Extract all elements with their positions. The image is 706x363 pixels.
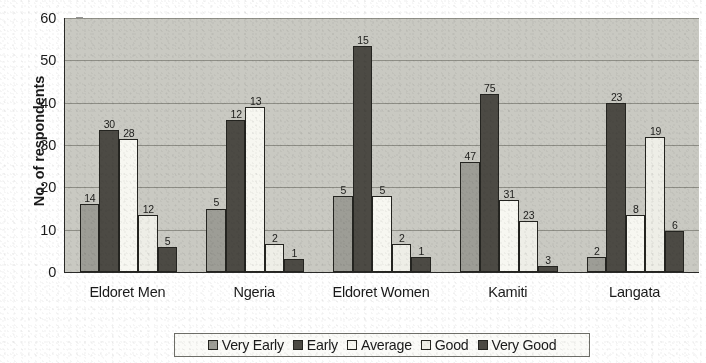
- bar-value-label: 3: [545, 255, 551, 266]
- legend-swatch-icon: [421, 340, 431, 350]
- bar-group: 2238196: [587, 18, 685, 272]
- legend-entry-very-good: Very Good: [478, 337, 557, 353]
- bar-group: 515521: [333, 18, 431, 272]
- chart-legend: Very EarlyEarlyAverageGoodVery Good: [174, 333, 590, 357]
- bar-value-label: 6: [672, 220, 678, 231]
- bar-value-label: 5: [165, 236, 171, 247]
- bar-value-label: 5: [340, 185, 346, 196]
- bar-value-label: 75: [484, 83, 495, 94]
- bar-value-label: 30: [104, 119, 115, 130]
- x-axis-label-langata: Langata: [609, 284, 660, 300]
- bar[interactable]: 2: [265, 244, 285, 272]
- bar[interactable]: 1: [411, 257, 431, 272]
- y-axis-tick-labels: 0102030405060: [18, 0, 56, 290]
- legend-label: Very Early: [222, 337, 284, 353]
- legend-label: Early: [307, 337, 338, 353]
- legend-label: Average: [361, 337, 412, 353]
- bar[interactable]: 8: [626, 215, 646, 272]
- bar[interactable]: 28: [119, 139, 139, 272]
- bar-value-label: 28: [123, 128, 134, 139]
- legend-entry-very-early: Very Early: [208, 337, 284, 353]
- bar-value-label: 5: [379, 185, 385, 196]
- bar[interactable]: 12: [226, 120, 246, 272]
- legend-entry-early: Early: [293, 337, 338, 353]
- bars-layer: 14302812551213215155214775312332238196: [65, 18, 699, 272]
- legend-entry-average: Average: [347, 337, 412, 353]
- bar[interactable]: 30: [99, 130, 119, 272]
- bar-value-label: 2: [272, 233, 278, 244]
- bar[interactable]: 75: [480, 94, 500, 272]
- legend-entry-good: Good: [421, 337, 469, 353]
- bar[interactable]: 23: [519, 221, 539, 272]
- bar-value-label: 15: [357, 35, 368, 46]
- bar-value-label: 1: [292, 248, 298, 259]
- bar-value-label: 19: [650, 126, 661, 137]
- legend-swatch-icon: [478, 340, 488, 350]
- bar-value-label: 12: [230, 109, 241, 120]
- bar-chart: No. of respondents 0102030405060 1430281…: [0, 0, 706, 363]
- x-axis-label-eldoret-women: Eldoret Women: [332, 284, 429, 300]
- bar-group: 5121321: [206, 18, 304, 272]
- bar[interactable]: 5: [333, 196, 353, 272]
- x-axis-label-ngeria: Ngeria: [233, 284, 275, 300]
- legend-swatch-icon: [347, 340, 357, 350]
- bar[interactable]: 13: [245, 107, 265, 272]
- y-axis-tick-30: 30: [18, 137, 56, 153]
- legend-label: Very Good: [492, 337, 557, 353]
- bar[interactable]: 5: [372, 196, 392, 272]
- x-axis-category-labels: Eldoret MenNgeriaEldoret WomenKamitiLang…: [64, 284, 698, 308]
- bar-value-label: 8: [633, 204, 639, 215]
- bar[interactable]: 12: [138, 215, 158, 272]
- bar-value-label: 12: [143, 204, 154, 215]
- y-axis-tick-50: 50: [18, 52, 56, 68]
- bar-value-label: 2: [594, 246, 600, 257]
- x-axis-label-kamiti: Kamiti: [488, 284, 527, 300]
- y-axis-tick-20: 20: [18, 179, 56, 195]
- legend-label: Good: [435, 337, 469, 353]
- bar[interactable]: 3: [538, 266, 558, 272]
- bar-value-label: 1: [418, 246, 424, 257]
- bar[interactable]: 2: [392, 244, 412, 272]
- bar-value-label: 13: [250, 96, 261, 107]
- bar-group: 477531233: [460, 18, 558, 272]
- legend-swatch-icon: [208, 340, 218, 350]
- bar[interactable]: 2: [587, 257, 607, 272]
- bar[interactable]: 1: [284, 259, 304, 272]
- bar-value-label: 47: [465, 151, 476, 162]
- bar[interactable]: 47: [460, 162, 480, 272]
- bar[interactable]: 5: [158, 247, 178, 272]
- y-axis-tick-10: 10: [18, 222, 56, 238]
- bar-value-label: 14: [84, 193, 95, 204]
- plot-area: 14302812551213215155214775312332238196: [64, 18, 699, 273]
- bar[interactable]: 14: [80, 204, 100, 272]
- y-axis-tick-60: 60: [18, 10, 56, 26]
- bar-value-label: 23: [611, 92, 622, 103]
- bar[interactable]: 31: [499, 200, 519, 272]
- bar[interactable]: 23: [606, 103, 626, 272]
- bar[interactable]: 19: [645, 137, 665, 272]
- bar[interactable]: 6: [665, 231, 685, 272]
- y-axis-tick-0: 0: [18, 264, 56, 280]
- bar-value-label: 31: [504, 189, 515, 200]
- bar[interactable]: 5: [206, 209, 226, 273]
- bar[interactable]: 15: [353, 46, 373, 272]
- x-axis-label-eldoret-men: Eldoret Men: [89, 284, 165, 300]
- bar-value-label: 2: [399, 233, 405, 244]
- bar-value-label: 5: [214, 197, 220, 208]
- bar-group: 143028125: [80, 18, 178, 272]
- y-axis-tick-40: 40: [18, 95, 56, 111]
- bar-value-label: 23: [523, 210, 534, 221]
- legend-swatch-icon: [293, 340, 303, 350]
